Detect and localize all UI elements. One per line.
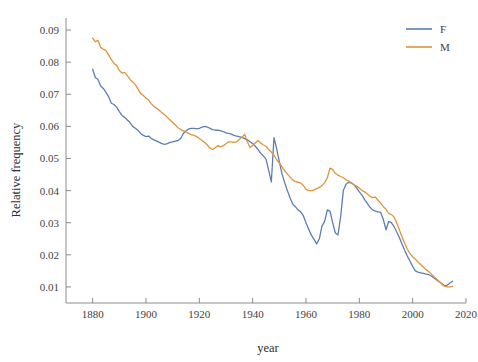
series-group bbox=[93, 38, 453, 287]
x-tick-label: 1920 bbox=[188, 308, 211, 320]
y-tick-label: 0.03 bbox=[40, 217, 60, 229]
y-tick-labels: 0.010.020.030.040.050.060.070.080.09 bbox=[40, 24, 60, 293]
y-tick-label: 0.08 bbox=[40, 56, 60, 68]
x-tick-labels: 18801900192019401960198020002020 bbox=[82, 308, 478, 320]
tick-marks-group bbox=[66, 30, 466, 303]
y-tick-label: 0.06 bbox=[40, 120, 60, 132]
y-tick-label: 0.01 bbox=[40, 281, 59, 293]
y-tick-label: 0.07 bbox=[40, 88, 60, 100]
x-tick-label: 1900 bbox=[135, 308, 158, 320]
y-tick-label: 0.04 bbox=[40, 185, 60, 197]
chart-figure: 18801900192019401960198020002020 0.010.0… bbox=[0, 0, 478, 362]
x-tick-label: 1880 bbox=[82, 308, 105, 320]
legend-label-f: F bbox=[440, 23, 446, 35]
y-tick-label: 0.09 bbox=[40, 24, 60, 36]
x-tick-label: 1960 bbox=[295, 308, 318, 320]
y-tick-label: 0.05 bbox=[40, 152, 60, 164]
y-tick-label: 0.02 bbox=[40, 249, 59, 261]
x-tick-label: 2000 bbox=[402, 308, 425, 320]
legend-label-m: M bbox=[440, 41, 450, 53]
x-tick-label: 2020 bbox=[455, 308, 478, 320]
chart-legend: FM bbox=[406, 23, 450, 53]
y-axis-title: Relative frequency bbox=[9, 122, 23, 217]
x-tick-label: 1980 bbox=[348, 308, 371, 320]
line-chart: 18801900192019401960198020002020 0.010.0… bbox=[0, 0, 478, 362]
x-axis-title: year bbox=[257, 341, 279, 355]
x-tick-label: 1940 bbox=[242, 308, 265, 320]
series-line-f bbox=[93, 69, 453, 285]
